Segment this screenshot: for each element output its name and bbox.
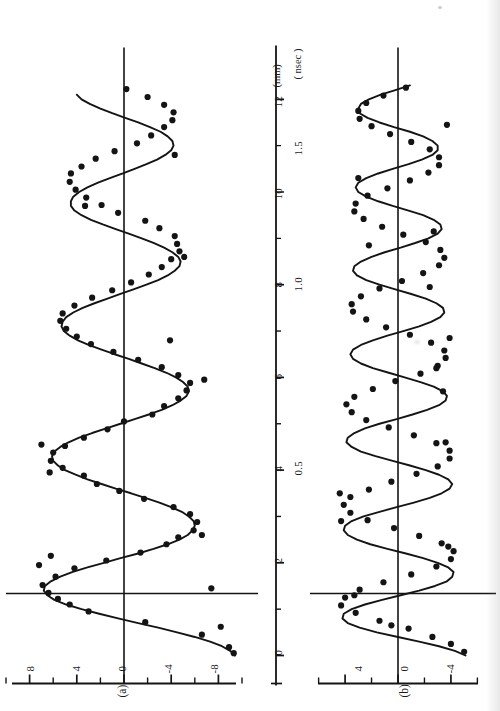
xtick-8: 8 [272,281,284,287]
xtick-12: 12 [272,96,284,107]
scan-speck [438,6,442,9]
panel-a-plot [0,0,262,711]
xtick-2: 2 [272,557,284,563]
panel-b-tag: (b) [398,684,410,697]
xtick-6: 6 [272,373,284,379]
xtick-10: 10 [272,188,284,199]
panel-a-ytick-8: 8 [24,665,36,671]
panel-b-ytick-0: 0 [398,665,410,671]
rotated-figure-canvas: 8 4 0 -4 -8 (a) 0 2 4 6 8 10 12 (mm) 0.5… [0,0,500,711]
panel-a-ytick-4: 4 [70,665,82,671]
panel-a [0,0,262,711]
panel-b-ytick-4: 4 [352,665,364,671]
xtick-4: 4 [272,465,284,471]
panel-a-ytick-neg8: -8 [208,663,220,673]
panel-b-ytick-neg4: -4 [444,663,456,673]
xtick-nsec-0p5: 0.5 [292,461,304,475]
x-axis-unit-nsec: ( nsec ) [292,48,303,79]
xtick-nsec-1p0: 1.0 [292,277,304,291]
panel-b [306,0,500,711]
panel-b-plot [306,0,500,711]
x-axis-unit-mm: (mm) [271,64,282,87]
figure-root: 8 4 0 -4 -8 (a) 0 2 4 6 8 10 12 (mm) 0.5… [0,0,500,711]
xtick-0: 0 [272,649,284,655]
panel-a-tag: (a) [116,684,128,697]
panel-a-ytick-0: 0 [116,665,128,671]
scan-smudge [414,340,420,344]
xtick-nsec-1p5: 1.5 [292,141,304,155]
panel-a-ytick-neg4: -4 [162,663,174,673]
